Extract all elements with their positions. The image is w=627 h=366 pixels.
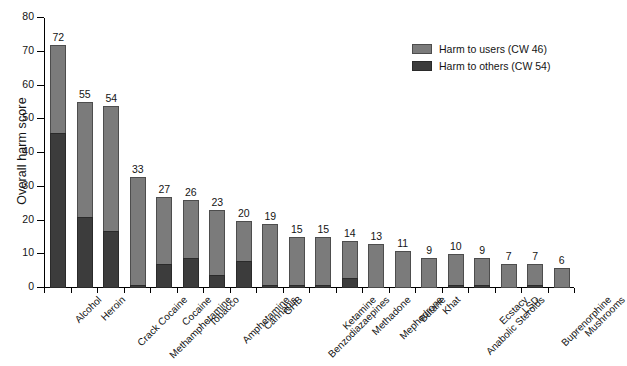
bar-group: 33 — [130, 177, 146, 288]
bar-segment-harm-to-users — [501, 264, 517, 288]
x-tick — [548, 288, 549, 293]
y-tick-label: 30 — [22, 179, 34, 191]
bar-group: 11 — [395, 251, 411, 288]
bar-value-label: 23 — [211, 196, 223, 208]
x-tick — [309, 288, 310, 293]
bar-segment-harm-to-others — [448, 285, 464, 288]
bar-segment-harm-to-others — [50, 133, 66, 288]
x-tick — [415, 288, 416, 293]
bar-segment-harm-to-others — [262, 285, 278, 288]
bar-segment-harm-to-users — [554, 268, 570, 288]
legend-label-users: Harm to users (CW 46) — [439, 43, 547, 55]
bar-segment-harm-to-others — [183, 258, 199, 288]
bar-group: 23 — [209, 210, 225, 288]
bar-value-label: 11 — [397, 237, 408, 249]
bar-value-label: 7 — [506, 250, 512, 262]
bar-segment-harm-to-users — [448, 254, 464, 288]
legend-swatch-users-icon — [412, 44, 432, 54]
y-tick-label: 20 — [22, 213, 34, 225]
legend-item-harm-to-others: Harm to others (CW 54) — [412, 60, 550, 72]
bar-value-label: 15 — [317, 223, 329, 235]
y-tick-label: 60 — [22, 78, 34, 90]
y-tick-label: 70 — [22, 44, 34, 56]
bar-segment-harm-to-others — [289, 285, 305, 288]
bar-value-label: 7 — [532, 250, 538, 262]
bar-group: 15 — [315, 237, 331, 288]
y-tick: 40 — [37, 152, 44, 153]
y-tick-label: 0 — [28, 280, 34, 292]
x-tick — [124, 288, 125, 293]
y-tick-label: 80 — [22, 10, 34, 22]
bar-group: 9 — [421, 258, 437, 288]
x-tick — [44, 288, 45, 293]
y-tick: 30 — [37, 186, 44, 187]
bar-value-label: 33 — [132, 163, 144, 175]
legend-label-others: Harm to others (CW 54) — [439, 60, 550, 72]
bar-group: 26 — [183, 200, 199, 288]
bar-segment-harm-to-users — [368, 244, 384, 288]
bar-group: 7 — [501, 264, 517, 288]
y-tick-label: 50 — [22, 111, 34, 123]
y-tick: 20 — [37, 220, 44, 221]
bar-value-label: 6 — [559, 254, 565, 266]
bar-segment-harm-to-others — [474, 285, 490, 288]
bar-group: 13 — [368, 244, 384, 288]
chart-legend: Harm to users (CW 46) Harm to others (CW… — [412, 43, 550, 77]
x-tick — [150, 288, 151, 293]
y-tick-label: 40 — [22, 145, 34, 157]
bar-value-label: 10 — [450, 240, 462, 252]
y-tick: 50 — [37, 118, 44, 119]
bar-group: 19 — [262, 224, 278, 288]
y-tick: 70 — [37, 51, 44, 52]
bar-segment-harm-to-users — [421, 258, 437, 288]
x-tick — [230, 288, 231, 293]
bar-value-label: 27 — [158, 183, 170, 195]
bar-value-label: 19 — [264, 210, 276, 222]
x-tick — [203, 288, 204, 293]
legend-swatch-others-icon — [412, 61, 432, 71]
bar-value-label: 26 — [185, 186, 197, 198]
x-tick — [283, 288, 284, 293]
x-tick — [71, 288, 72, 293]
bar-value-label: 14 — [344, 227, 356, 239]
x-tick — [521, 288, 522, 293]
bar-segment-harm-to-others — [77, 217, 93, 288]
x-tick — [574, 288, 575, 293]
y-tick-label: 10 — [22, 246, 34, 258]
bar-segment-harm-to-users — [262, 224, 278, 288]
x-tick — [468, 288, 469, 293]
x-tick — [495, 288, 496, 293]
x-axis-label: Alcohol — [73, 294, 104, 325]
bar-segment-harm-to-users — [130, 177, 146, 288]
x-tick — [442, 288, 443, 293]
x-tick — [97, 288, 98, 293]
y-tick: 60 — [37, 85, 44, 86]
x-tick — [256, 288, 257, 293]
bar-group: 9 — [474, 258, 490, 288]
legend-item-harm-to-users: Harm to users (CW 46) — [412, 43, 550, 55]
bar-segment-harm-to-users — [289, 237, 305, 288]
bar-segment-harm-to-others — [130, 285, 146, 288]
bar-group: 54 — [103, 106, 119, 288]
bar-group: 7 — [527, 264, 543, 288]
bar-segment-harm-to-users — [315, 237, 331, 288]
bar-group: 15 — [289, 237, 305, 288]
bar-group: 27 — [156, 197, 172, 288]
y-tick: 0 — [37, 287, 44, 288]
bar-group: 72 — [50, 45, 66, 288]
bar-value-label: 55 — [79, 88, 91, 100]
bar-group: 6 — [554, 268, 570, 288]
bar-group: 10 — [448, 254, 464, 288]
bar-group: 55 — [77, 102, 93, 288]
x-axis-label: Heroin — [98, 294, 127, 323]
bar-value-label: 54 — [105, 92, 117, 104]
y-tick: 80 — [37, 17, 44, 18]
x-tick — [389, 288, 390, 293]
bar-value-label: 15 — [291, 223, 303, 235]
bar-group: 20 — [236, 221, 252, 289]
bar-segment-harm-to-others — [156, 264, 172, 288]
bar-segment-harm-to-others — [342, 278, 358, 288]
x-tick — [336, 288, 337, 293]
bar-group: 14 — [342, 241, 358, 288]
